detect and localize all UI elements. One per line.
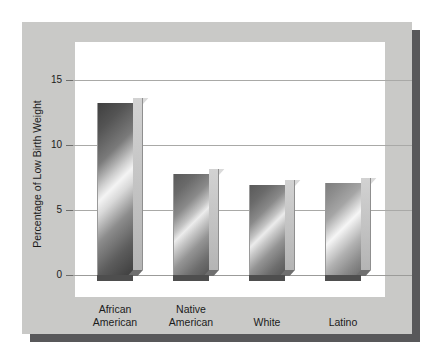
bar-front-face bbox=[173, 174, 209, 275]
xlabel-latino: Latino bbox=[295, 316, 391, 329]
figure-container: 15 10 5 0 Percentage of Low Birth Weight… bbox=[0, 0, 438, 364]
panel-drop-shadow-right bbox=[412, 30, 420, 342]
bar-foot bbox=[249, 275, 285, 281]
ytick-mark-10 bbox=[66, 145, 73, 146]
bar-side-face bbox=[361, 178, 371, 270]
bar-foot bbox=[325, 275, 361, 281]
bar-side-face bbox=[285, 180, 295, 270]
gridline-15 bbox=[72, 80, 412, 81]
bar-front-face bbox=[97, 103, 133, 275]
xlabel-line-1: Latino bbox=[295, 316, 391, 329]
bar-front-face bbox=[249, 185, 285, 275]
bar-side-face bbox=[133, 98, 143, 270]
bar-foot bbox=[173, 275, 209, 281]
ytick-mark-5 bbox=[66, 210, 73, 211]
y-axis-title: Percentage of Low Birth Weight bbox=[31, 74, 43, 274]
panel-drop-shadow-bottom bbox=[30, 334, 420, 342]
ytick-mark-15 bbox=[66, 80, 73, 81]
bar-front-face bbox=[325, 183, 361, 275]
bar-side-face bbox=[209, 169, 219, 270]
xlabel-line-1: Native bbox=[143, 303, 239, 316]
ytick-mark-0 bbox=[66, 275, 73, 276]
bar-foot bbox=[97, 275, 133, 281]
